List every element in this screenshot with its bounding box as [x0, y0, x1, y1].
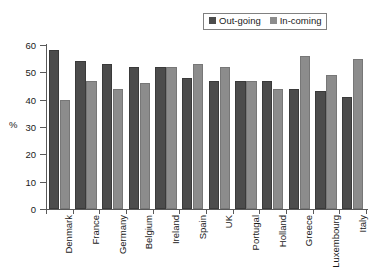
- x-axis-label-belgium: Belgium: [143, 215, 154, 249]
- bar-uk-outgoing: [209, 81, 220, 209]
- legend-label-outgoing: Out-going: [219, 16, 261, 26]
- legend-swatch-incoming-icon: [270, 17, 277, 24]
- bar-france-incoming: [86, 81, 97, 209]
- bar-belgium-outgoing: [129, 67, 140, 209]
- bar-holland-incoming: [273, 89, 284, 209]
- legend-label-incoming: In-coming: [280, 16, 322, 26]
- bar-denmark-outgoing: [49, 50, 60, 209]
- x-axis-labels: DenmarkFranceGermanyBelgiumIrelandSpainU…: [0, 213, 376, 271]
- bar-italy-incoming: [353, 59, 364, 209]
- x-axis-label-france: France: [90, 215, 101, 245]
- bar-luxembourg-outgoing: [315, 91, 326, 209]
- bar-holland-outgoing: [262, 81, 273, 209]
- bar-chart: Out-going In-coming % 0102030405060 Denm…: [0, 0, 376, 271]
- x-axis-label-portugal: Portugal: [250, 215, 261, 250]
- bar-denmark-incoming: [60, 100, 71, 209]
- bar-greece-incoming: [300, 56, 311, 209]
- bar-luxembourg-incoming: [326, 75, 337, 209]
- bar-france-outgoing: [75, 61, 86, 209]
- x-axis-label-denmark: Denmark: [63, 215, 74, 254]
- x-axis-line: [46, 209, 368, 210]
- y-tick-label-60: 60: [10, 40, 36, 51]
- legend-item-incoming: In-coming: [270, 16, 322, 26]
- bar-spain-outgoing: [182, 78, 193, 209]
- bar-germany-incoming: [113, 89, 124, 209]
- plot-area: [46, 45, 366, 209]
- x-axis-label-ireland: Ireland: [170, 215, 181, 244]
- bar-uk-incoming: [220, 67, 231, 209]
- bar-portugal-incoming: [246, 81, 257, 209]
- bar-ireland-incoming: [166, 67, 177, 209]
- legend-swatch-outgoing-icon: [209, 17, 216, 24]
- x-axis-label-holland: Holland: [277, 215, 288, 247]
- x-axis-label-italy: Italy: [357, 215, 368, 232]
- bar-spain-incoming: [193, 64, 204, 209]
- x-axis-label-germany: Germany: [117, 215, 128, 254]
- y-tick-label-10: 10: [10, 176, 36, 187]
- x-axis-label-uk: UK: [223, 215, 234, 228]
- bar-germany-outgoing: [102, 64, 113, 209]
- bar-ireland-outgoing: [155, 67, 166, 209]
- x-axis-label-greece: Greece: [303, 215, 314, 246]
- bar-portugal-outgoing: [235, 81, 246, 209]
- bar-belgium-incoming: [140, 83, 151, 209]
- y-tick-label-50: 50: [10, 67, 36, 78]
- bar-italy-outgoing: [342, 97, 353, 209]
- legend-item-outgoing: Out-going: [209, 16, 261, 26]
- y-tick-label-20: 20: [10, 149, 36, 160]
- bar-greece-outgoing: [289, 89, 300, 209]
- x-axis-label-luxembourg: Luxembourg: [330, 215, 341, 268]
- y-tick-label-40: 40: [10, 94, 36, 105]
- y-tick-label-30: 30: [10, 122, 36, 133]
- x-axis-label-spain: Spain: [197, 215, 208, 239]
- chart-legend: Out-going In-coming: [203, 13, 327, 30]
